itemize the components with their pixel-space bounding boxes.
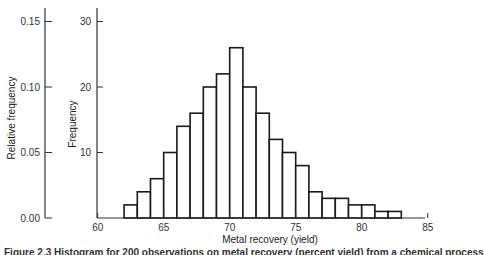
histogram-bar (217, 74, 230, 218)
histogram-bar (164, 153, 177, 219)
histogram-bar (362, 205, 375, 218)
histogram-bar (177, 126, 190, 218)
x-tick-label: 75 (290, 222, 302, 233)
y-tick-label: 10 (80, 147, 92, 158)
x-tick-label: 85 (422, 222, 434, 233)
histogram-bar (335, 198, 348, 218)
histogram-bar (349, 205, 362, 218)
histogram-bar (269, 139, 282, 218)
histogram-bar (296, 166, 309, 218)
histogram-bar (388, 211, 401, 218)
histogram-bar (230, 48, 243, 218)
frequency-axis: 102030 (80, 8, 103, 218)
x-axis-title: Metal recovery (yield) (222, 234, 318, 245)
figure-caption: Figure 2.3 Histogram for 200 observation… (4, 246, 484, 255)
y2-tick-label: 0.10 (21, 82, 41, 93)
x-tick-label: 65 (158, 222, 170, 233)
histogram-bar (151, 179, 164, 218)
y2-tick-label: 0.00 (21, 213, 41, 224)
y-axis-title-frequency: Frequency (67, 100, 78, 147)
x-tick-label: 80 (356, 222, 368, 233)
x-tick-label: 70 (224, 222, 236, 233)
x-tick-label: 60 (92, 222, 104, 233)
y2-tick-label: 0.15 (21, 16, 41, 27)
histogram-bar (203, 87, 216, 218)
y2-tick-label: 0.05 (21, 147, 41, 158)
histogram-bar (375, 211, 388, 218)
histogram-bar (124, 205, 137, 218)
histogram-bar (309, 192, 322, 218)
y-axis-title-relative-frequency: Relative frequency (6, 77, 17, 160)
relative-frequency-axis: 0.000.050.100.15 (21, 8, 52, 224)
histogram-bar (190, 113, 203, 218)
histogram-chart: 0.000.050.100.15 102030 606570758085 Met… (0, 0, 438, 245)
y-tick-label: 20 (80, 82, 92, 93)
histogram-bars (124, 48, 401, 218)
histogram-bar (137, 192, 150, 218)
y-tick-label: 30 (80, 16, 92, 27)
histogram-bar (256, 113, 269, 218)
histogram-bar (283, 153, 296, 219)
histogram-bar (322, 198, 335, 218)
histogram-bar (243, 87, 256, 218)
